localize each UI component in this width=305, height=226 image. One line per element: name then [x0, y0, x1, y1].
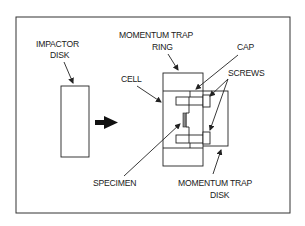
- label-impactor-disk-2: DISK: [50, 50, 70, 60]
- label-cell: CELL: [121, 74, 142, 84]
- label-momentum-trap-ring-1: MOMENTUM TRAP: [119, 30, 194, 40]
- split-hopkinson-diagram: IMPACTOR DISK MOMENTUM TRAP RING CAP SCR…: [0, 0, 305, 226]
- label-impactor-disk-1: IMPACTOR: [36, 39, 79, 49]
- label-screws: SCREWS: [228, 68, 265, 78]
- label-momentum-trap-disk-2: DISK: [210, 190, 230, 200]
- screw-bottom: [203, 132, 210, 144]
- impactor-disk: [61, 86, 89, 157]
- label-specimen: SPECIMEN: [93, 178, 136, 188]
- screw-top: [203, 95, 210, 107]
- impact-direction-arrow-icon: [95, 116, 118, 129]
- label-cap: CAP: [237, 42, 255, 52]
- label-momentum-trap-disk-1: MOMENTUM TRAP: [178, 178, 253, 188]
- label-momentum-trap-ring-2: RING: [152, 42, 173, 52]
- specimen: [183, 113, 186, 127]
